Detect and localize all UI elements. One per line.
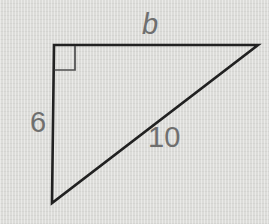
label-left-side-6: 6 (30, 108, 46, 137)
right-angle-marker-icon (55, 46, 76, 70)
label-hypotenuse-10: 10 (148, 123, 180, 152)
triangle-figure: b 6 10 (0, 0, 269, 224)
label-top-side-b: b (142, 10, 158, 39)
